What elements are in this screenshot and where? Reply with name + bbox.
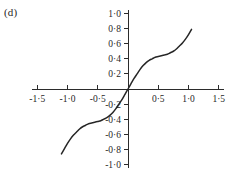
y-tick-label: 0·2	[108, 69, 121, 79]
y-tick-label: -0·4	[105, 115, 121, 125]
x-tick-label: 0·5	[152, 94, 165, 104]
y-tick-label: 0·4	[108, 54, 121, 64]
x-tick-label: -1·0	[60, 94, 76, 104]
x-axis-tick-labels: -1·5-1·0-0·50·51·01·5	[29, 94, 225, 104]
x-tick-label: -0·5	[90, 94, 106, 104]
data-curve	[61, 29, 191, 154]
y-tick-label: -1·0	[105, 160, 121, 170]
figure-panel: (d) -1·5-1·0-0·50·51·01·5 1·00·80·60·40·…	[0, 0, 238, 173]
y-tick-label: -0·8	[105, 145, 121, 155]
y-tick-label: 1·0	[108, 9, 121, 19]
x-tick-label: 1·5	[212, 94, 225, 104]
y-tick-label: 0·8	[108, 24, 121, 34]
y-tick-label: 0·6	[108, 39, 121, 49]
curve-line	[61, 29, 191, 154]
plot-area: -1·5-1·0-0·50·51·01·5 1·00·80·60·40·2-0·…	[0, 0, 238, 173]
x-tick-label: -1·5	[29, 94, 45, 104]
x-tick-label: 1·0	[182, 94, 195, 104]
y-tick-label: -0·6	[105, 130, 121, 140]
